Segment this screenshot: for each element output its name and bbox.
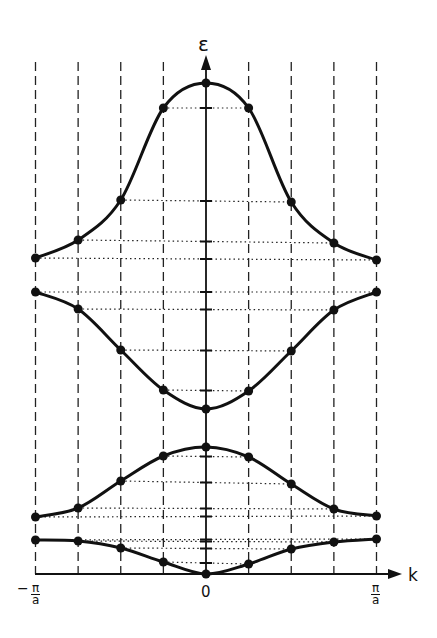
- x-tick-left-sign: −: [17, 580, 29, 596]
- k-point-dot: [244, 387, 253, 396]
- k-point-dot: [329, 538, 338, 547]
- k-point-dot: [159, 558, 168, 567]
- k-point-dot: [202, 79, 211, 88]
- k-point-dot: [74, 537, 83, 546]
- k-point-dot: [329, 239, 338, 248]
- k-point-dot: [287, 545, 296, 554]
- k-point-dot: [159, 386, 168, 395]
- k-point-dot: [244, 560, 253, 569]
- k-point-dot: [159, 104, 168, 113]
- k-axis-label: k: [408, 565, 418, 585]
- k-point-dot: [372, 256, 381, 265]
- k-point-dot: [116, 196, 125, 205]
- k-point-dot: [372, 512, 381, 521]
- k-point-dot: [74, 305, 83, 314]
- k-point-dot: [159, 452, 168, 461]
- k-point-dot: [244, 453, 253, 462]
- k-point-dot: [74, 236, 83, 245]
- x-tick-zero: 0: [201, 583, 211, 601]
- k-point-dot: [287, 198, 296, 207]
- k-point-dot: [74, 504, 83, 513]
- k-point-dot: [31, 254, 40, 263]
- k-point-dot: [31, 513, 40, 522]
- k-point-dot: [329, 306, 338, 315]
- k-point-dot: [202, 405, 211, 414]
- x-tick-right: π a: [371, 583, 380, 606]
- k-point-dot: [202, 443, 211, 452]
- x-tick-right-den: a: [372, 595, 379, 606]
- k-point-dot: [31, 288, 40, 297]
- k-point-dot: [116, 544, 125, 553]
- k-point-dot: [116, 346, 125, 355]
- k-point-dot: [329, 505, 338, 514]
- k-point-dot: [287, 480, 296, 489]
- x-tick-left-den: a: [32, 595, 39, 606]
- k-point-dot: [244, 104, 253, 113]
- k-point-dot: [31, 536, 40, 545]
- epsilon-axis-arrow-icon: [201, 55, 211, 70]
- k-point-dot: [287, 347, 296, 356]
- x-tick-left: π a: [31, 583, 40, 606]
- k-point-dot: [372, 288, 381, 297]
- epsilon-axis-label: ε: [198, 32, 209, 56]
- k-point-dot: [372, 535, 381, 544]
- k-point-dot: [116, 477, 125, 486]
- x-axis-arrow-icon: [388, 569, 402, 579]
- k-point-dot: [202, 570, 211, 579]
- band-structure-diagram: [0, 0, 437, 638]
